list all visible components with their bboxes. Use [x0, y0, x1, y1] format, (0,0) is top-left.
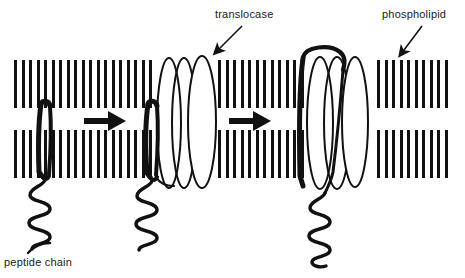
phospholipid-callout-arrow — [401, 26, 422, 54]
bilayer-upper-leaflet-segment-right — [379, 60, 447, 108]
bilayer-lower-leaflet-segment-right — [379, 130, 447, 178]
peptide-chain-label: peptide chain — [4, 256, 72, 268]
bilayer-lower-leaflet-segment-left — [16, 130, 151, 178]
translocase-callout-arrow — [216, 26, 242, 52]
process-arrow-2 — [229, 111, 271, 131]
peptide-coil-3 — [309, 193, 330, 267]
translocase-label: translocase — [215, 8, 273, 20]
stage-peptide-meets-translocase — [136, 56, 216, 250]
process-arrow-1 — [84, 111, 126, 131]
translocation-diagram: translocase phospholipid peptide chain — [0, 0, 465, 278]
bilayer-upper-leaflet-segment-middle — [220, 60, 303, 108]
translocase-helix-left-2 — [307, 57, 333, 189]
peptide-coil — [29, 180, 50, 249]
peptide-hairpin-turn-2 — [148, 101, 157, 106]
peptide-coil-2 — [136, 181, 157, 250]
stage-peptide-threading-translocase — [300, 47, 368, 267]
peptide-hairpin-right-strand — [49, 106, 51, 174]
peptide-hairpin-right-strand-2 — [156, 106, 158, 175]
phospholipid-label: phospholipid — [382, 8, 446, 20]
translocase-helix-left — [157, 58, 181, 188]
translocase-helix-right-2 — [342, 57, 368, 187]
bilayer-lower-leaflet-segment-middle — [220, 130, 303, 178]
peptide-hairpin-left-strand — [39, 104, 42, 176]
bilayer-upper-leaflet-segment-left — [16, 60, 151, 108]
diagram-canvas — [0, 0, 465, 278]
stage-peptide-inserted — [29, 101, 51, 249]
translocase-helix-right — [188, 56, 216, 188]
